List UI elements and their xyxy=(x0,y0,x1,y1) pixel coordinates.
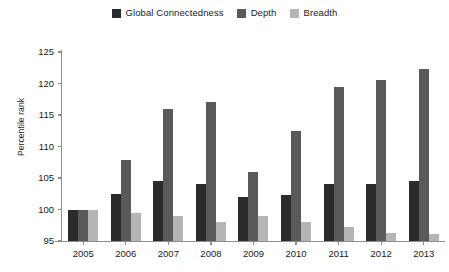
bar-2006-series-2 xyxy=(121,160,131,241)
bar-2008-series-3 xyxy=(216,222,226,241)
x-tick-mark-2008 xyxy=(210,241,211,245)
bar-group-2007 xyxy=(147,52,190,241)
y-tick-label: 115 xyxy=(39,110,58,120)
x-tick-mark-2007 xyxy=(168,241,169,245)
y-tick-label: 100 xyxy=(38,205,58,215)
bar-2005-series-2 xyxy=(78,210,88,242)
y-tick-110: 110 xyxy=(0,146,62,147)
x-tick-label-2011: 2011 xyxy=(319,248,359,259)
bar-2013-series-1 xyxy=(409,181,419,241)
bar-group-2012 xyxy=(360,52,403,241)
bar-group-2013 xyxy=(402,52,445,241)
legend-label-depth: Depth xyxy=(251,8,277,18)
bar-2011-series-3 xyxy=(344,227,354,241)
bar-2009-series-3 xyxy=(258,216,268,241)
y-axis-title: Percentile rank xyxy=(14,0,28,272)
legend-label-global-connectedness: Global Connectedness xyxy=(126,8,224,18)
bar-2010-series-1 xyxy=(281,195,291,241)
bar-2009-series-2 xyxy=(248,172,258,241)
bar-2011-series-1 xyxy=(324,184,334,241)
bar-2009-series-1 xyxy=(238,197,248,241)
legend-item-global-connectedness: Global Connectedness xyxy=(112,8,224,18)
bar-2013-series-3 xyxy=(429,234,439,241)
bar-2005-series-3 xyxy=(88,210,98,242)
legend-item-depth: Depth xyxy=(237,8,277,18)
y-tick-120: 120 xyxy=(0,83,62,84)
y-tick-100: 100 xyxy=(0,209,62,210)
bar-group-2008 xyxy=(190,52,233,241)
y-tick-label: 110 xyxy=(39,142,58,152)
x-tick-mark-2013 xyxy=(423,241,424,245)
bar-2006-series-1 xyxy=(111,194,121,241)
bar-2010-series-2 xyxy=(291,131,301,241)
bar-groups xyxy=(62,52,445,241)
bar-2005-series-1 xyxy=(68,210,78,242)
bar-2007-series-2 xyxy=(163,109,173,241)
bar-2013-series-2 xyxy=(419,69,429,241)
x-tick-mark-2012 xyxy=(381,241,382,245)
y-axis-title-text: Percentile rank xyxy=(16,98,26,156)
legend-swatch-breadth xyxy=(290,9,299,18)
bar-2006-series-3 xyxy=(131,213,141,241)
x-tick-label-2006: 2006 xyxy=(106,248,146,259)
legend-item-breadth: Breadth xyxy=(290,8,338,18)
x-tick-mark-2006 xyxy=(125,241,126,245)
legend-swatch-depth xyxy=(237,9,246,18)
y-tick-label: 125 xyxy=(38,47,58,57)
x-tick-label-2010: 2010 xyxy=(276,248,316,259)
bar-2012-series-1 xyxy=(366,184,376,241)
bar-2010-series-3 xyxy=(301,222,311,241)
y-tick-label: 95 xyxy=(43,236,58,246)
bar-2008-series-1 xyxy=(196,184,206,241)
y-tick-125: 125 xyxy=(0,52,62,53)
chart-legend: Global Connectedness Depth Breadth xyxy=(0,8,449,18)
legend-label-breadth: Breadth xyxy=(304,8,338,18)
bar-2007-series-1 xyxy=(153,181,163,241)
bar-group-2011 xyxy=(317,52,360,241)
bar-2011-series-2 xyxy=(334,87,344,241)
bar-group-2005 xyxy=(62,52,105,241)
bar-2008-series-2 xyxy=(206,102,216,241)
x-tick-label-2013: 2013 xyxy=(404,248,444,259)
bar-2012-series-3 xyxy=(386,233,396,241)
x-tick-label-2005: 2005 xyxy=(63,248,103,259)
bar-group-2010 xyxy=(275,52,318,241)
y-tick-115: 115 xyxy=(0,115,62,116)
x-tick-label-2012: 2012 xyxy=(361,248,401,259)
bar-2012-series-2 xyxy=(376,80,386,241)
y-tick-label: 120 xyxy=(38,79,58,89)
bar-group-2009 xyxy=(232,52,275,241)
x-tick-mark-2009 xyxy=(253,241,254,245)
bar-2007-series-3 xyxy=(173,216,183,241)
x-tick-label-2009: 2009 xyxy=(234,248,274,259)
x-tick-mark-2005 xyxy=(83,241,84,245)
x-tick-label-2007: 2007 xyxy=(148,248,188,259)
x-tick-mark-2010 xyxy=(295,241,296,245)
y-tick-105: 105 xyxy=(0,178,62,179)
bar-group-2006 xyxy=(105,52,148,241)
legend-swatch-global-connectedness xyxy=(112,9,121,18)
x-tick-label-2008: 2008 xyxy=(191,248,231,259)
x-tick-mark-2011 xyxy=(338,241,339,245)
bar-chart-figure: Global Connectedness Depth Breadth Perce… xyxy=(0,0,449,272)
y-tick-95: 95 xyxy=(0,241,62,242)
y-tick-label: 105 xyxy=(38,173,58,183)
